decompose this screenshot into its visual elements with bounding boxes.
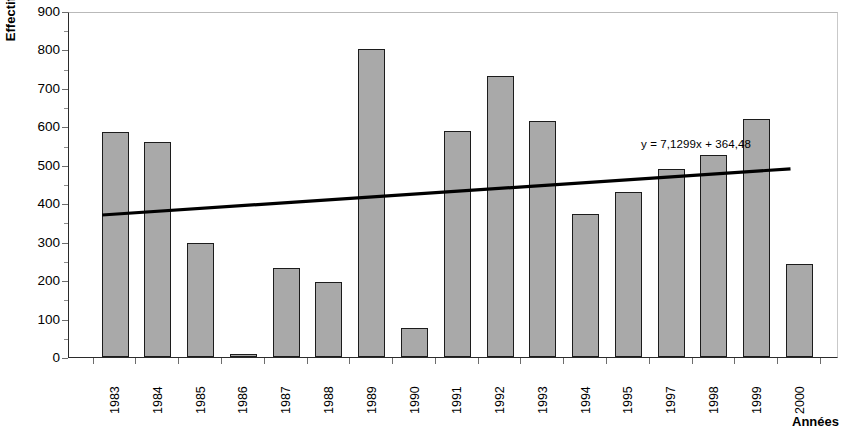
bar <box>658 169 685 357</box>
y-axis-tick-label: 900 <box>12 5 60 19</box>
x-axis-tick-label: 1994 <box>579 368 593 414</box>
bar <box>230 354 257 357</box>
bar <box>572 214 599 357</box>
x-axis-tick-mark <box>649 358 650 364</box>
bar-chart-figure: Effectifs 0100200300400500600700800900 1… <box>0 0 851 436</box>
x-axis-tick-mark <box>135 358 136 364</box>
x-axis-tick-label-text: 1983 <box>108 386 122 414</box>
x-axis-tick-label-text: 1992 <box>493 386 507 414</box>
x-axis-tick-label-text: 1990 <box>408 386 422 414</box>
x-axis-tick-mark <box>93 358 94 364</box>
x-axis-tick-mark <box>221 358 222 364</box>
y-axis-title: Effectifs <box>0 8 22 118</box>
x-axis-tick-mark <box>478 358 479 364</box>
y-axis-tick-label: 800 <box>12 44 60 58</box>
y-axis-tick-label: 500 <box>12 159 60 173</box>
x-axis-tick-mark <box>777 358 778 364</box>
plot-area <box>68 12 838 358</box>
y-axis-tick-label: 100 <box>12 313 60 327</box>
x-axis-tick-label-text: 2000 <box>793 386 807 414</box>
bar <box>401 328 428 357</box>
x-axis-tick-label: 1995 <box>621 368 635 414</box>
bar <box>102 132 129 357</box>
y-axis-tick-mark <box>62 358 68 359</box>
x-axis-tick-mark <box>820 358 821 364</box>
x-axis-tick-label: 1986 <box>236 368 250 414</box>
bar <box>187 243 214 357</box>
x-axis-tick-label-text: 1994 <box>579 386 593 414</box>
bar <box>743 119 770 357</box>
y-axis-tick-label: 200 <box>12 274 60 288</box>
trendline-equation-label: y = 7,1299x + 364,48 <box>641 138 751 150</box>
x-axis-tick-label-text: 1986 <box>236 386 250 414</box>
x-axis-tick-label: 1998 <box>707 368 721 414</box>
x-axis-tick-mark <box>264 358 265 364</box>
bar <box>529 121 556 357</box>
bar <box>700 155 727 357</box>
x-axis-tick-mark <box>520 358 521 364</box>
bar <box>273 268 300 357</box>
bar <box>358 49 385 357</box>
x-axis-tick-label-text: 1984 <box>151 386 165 414</box>
y-axis-tick-label: 700 <box>12 82 60 96</box>
x-axis-tick-label: 2000 <box>793 368 807 414</box>
x-axis-tick-label-text: 1989 <box>365 386 379 414</box>
x-axis-tick-label-text: 1995 <box>621 386 635 414</box>
x-axis-tick-label: 1997 <box>664 368 678 414</box>
x-axis-tick-label: 1989 <box>365 368 379 414</box>
bar <box>487 76 514 357</box>
x-axis-tick-label: 1999 <box>750 368 764 414</box>
x-axis-tick-mark <box>349 358 350 364</box>
bar <box>144 142 171 357</box>
x-axis-tick-label-text: 1985 <box>194 386 208 414</box>
bar <box>615 192 642 357</box>
x-axis-tick-label: 1983 <box>108 368 122 414</box>
x-axis-tick-label: 1984 <box>151 368 165 414</box>
x-axis-tick-label-text: 1987 <box>279 386 293 414</box>
x-axis-tick-label: 1988 <box>322 368 336 414</box>
x-axis-tick-label: 1993 <box>536 368 550 414</box>
x-axis-tick-mark <box>435 358 436 364</box>
y-axis-tick-label: 400 <box>12 197 60 211</box>
x-axis-tick-mark <box>392 358 393 364</box>
x-axis-tick-label: 1985 <box>194 368 208 414</box>
x-axis-tick-mark <box>307 358 308 364</box>
x-axis-tick-label-text: 1997 <box>664 386 678 414</box>
x-axis-tick-label-text: 1999 <box>750 386 764 414</box>
x-axis-tick-label-text: 1993 <box>536 386 550 414</box>
x-axis-title: Années <box>792 414 839 429</box>
y-axis-tick-label: 300 <box>12 236 60 250</box>
x-axis-tick-mark <box>734 358 735 364</box>
x-axis-tick-label: 1987 <box>279 368 293 414</box>
bar <box>315 282 342 357</box>
y-axis-tick-label: 0 <box>12 351 60 365</box>
bar <box>786 264 813 357</box>
x-axis-tick-label: 1992 <box>493 368 507 414</box>
bar <box>444 131 471 357</box>
y-axis-tick-label: 600 <box>12 121 60 135</box>
x-axis-tick-label: 1990 <box>408 368 422 414</box>
x-axis-tick-label-text: 1991 <box>450 386 464 414</box>
x-axis-tick-label-text: 1988 <box>322 386 336 414</box>
x-axis-tick-label-text: 1998 <box>707 386 721 414</box>
x-axis-tick-label: 1991 <box>450 368 464 414</box>
x-axis-tick-mark <box>563 358 564 364</box>
x-axis-tick-mark <box>178 358 179 364</box>
x-axis-tick-mark <box>606 358 607 364</box>
x-axis-tick-mark <box>692 358 693 364</box>
